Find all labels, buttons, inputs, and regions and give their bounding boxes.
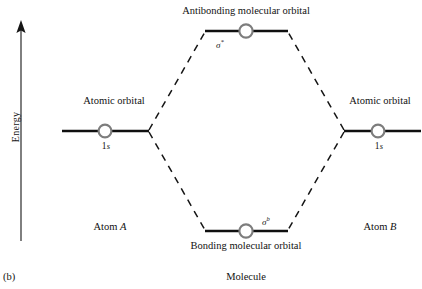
dashed-right-up — [288, 32, 344, 130]
atom-b-label: Atom B — [364, 222, 397, 233]
dashed-left-down — [149, 132, 205, 230]
orbital-1s-right-subshell: s — [380, 141, 384, 151]
electron-circle-atomic-left — [99, 125, 112, 138]
atomic-orbital-left-label: Atomic orbital — [83, 96, 145, 107]
molecule-label: Molecule — [226, 272, 266, 283]
bonding-label: Bonding molecular orbital — [191, 241, 302, 252]
dashed-right-down — [288, 132, 344, 230]
orbital-1s-right-label: 1s — [375, 142, 383, 152]
energy-axis-label: Energy — [11, 97, 21, 157]
electron-circle-antibonding — [239, 24, 252, 37]
level-lines — [62, 31, 421, 231]
atom-b-prefix: Atom — [364, 221, 388, 232]
sigma-star-label: σ* — [216, 41, 224, 50]
atom-b-name: B — [390, 221, 396, 232]
mo-energy-diagram: Energy Antibonding molecular orbital σ* … — [0, 0, 422, 289]
panel-letter: (b) — [3, 272, 15, 283]
antibonding-label: Antibonding molecular orbital — [182, 6, 310, 17]
atom-a-prefix: Atom — [94, 221, 118, 232]
sigma-bonding-label: σb — [262, 218, 270, 227]
correlation-lines — [149, 32, 344, 230]
atom-a-name: A — [120, 221, 126, 232]
sigma-star-superscript: * — [220, 38, 223, 45]
electron-circle-bonding — [239, 224, 252, 237]
orbital-1s-left-label: 1s — [102, 142, 110, 152]
dashed-left-up — [149, 32, 205, 130]
atomic-orbital-right-label: Atomic orbital — [349, 96, 411, 107]
sigma-bonding-superscript: b — [266, 215, 269, 222]
orbital-1s-left-subshell: s — [107, 141, 111, 151]
atom-a-label: Atom A — [94, 222, 127, 233]
electron-circle-atomic-right — [372, 125, 385, 138]
